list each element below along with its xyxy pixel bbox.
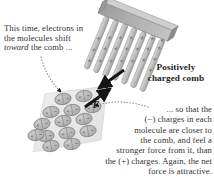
caption-bottom-right-line4: the comb, and feel a	[141, 135, 212, 145]
caption-bottom-right-line7: force is attractive.	[148, 166, 212, 176]
caption-bottom-right-line3: molecule are closer to	[134, 125, 212, 135]
caption-bottom-right-line5: stronger force from it, than	[116, 145, 212, 155]
force-vector-on-slab	[99, 70, 124, 88]
force-label-negF-text: F	[93, 100, 99, 110]
caption-top-left-emphasis: toward	[4, 42, 29, 52]
caption-top-left-line3-rest: the comb ...	[29, 42, 73, 52]
caption-bottom-right-line1: ... so that the	[167, 104, 212, 114]
caption-top-left-line2: the molecules shift	[4, 33, 71, 43]
comb-label-line2: charged comb	[148, 73, 205, 83]
force-label-F: F	[105, 84, 111, 94]
comb-label: Positively charged comb	[140, 62, 212, 84]
force-label-F-text: F	[105, 84, 111, 94]
physics-figure: + − + − + −	[0, 0, 214, 195]
force-label-negative-F: −F	[87, 100, 99, 110]
caption-bottom-right-line2: (−) charges in each	[145, 114, 212, 124]
caption-top-left: This time, electrons in the molecules sh…	[4, 24, 112, 53]
caption-bottom-right: ... so that the (−) charges in each mole…	[30, 104, 212, 176]
caption-top-left-line1: This time, electrons in	[4, 23, 83, 33]
caption-bottom-right-line6: the (+) charges. Again, the net	[105, 156, 212, 166]
comb-label-line1: Positively	[157, 62, 196, 72]
